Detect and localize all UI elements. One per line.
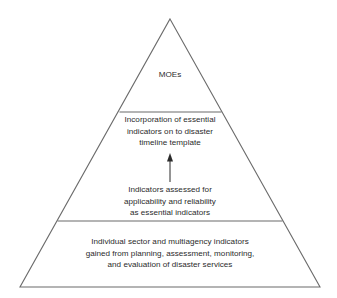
pyramid-tier-base-label: Individual sector and multiagency indica… xyxy=(32,236,308,271)
arrow-up-icon xyxy=(167,153,173,162)
pyramid-annotation-label: Indicators assessed for applicability an… xyxy=(78,184,262,219)
pyramid-tier-middle-label: Incorporation of essential indicators on… xyxy=(86,114,254,149)
pyramid-tier-top-label: MOEs xyxy=(96,69,244,81)
pyramid-diagram: MOEs Incorporation of essential indicato… xyxy=(0,0,337,298)
